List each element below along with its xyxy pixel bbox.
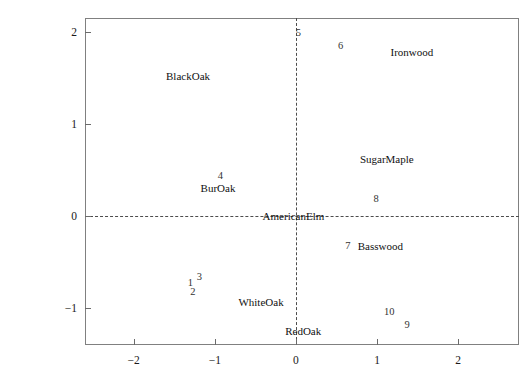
x-tick-label: 1 xyxy=(374,354,380,366)
y-tick-mark xyxy=(85,124,91,125)
y-tick-label: −1 xyxy=(49,302,77,314)
observation-point: 9 xyxy=(404,319,409,330)
variable-label: SugarMaple xyxy=(360,153,414,164)
y-tick-mark xyxy=(85,32,91,33)
scatter-biplot: −2−1012 −1012 12345678910 BlackOakBurOak… xyxy=(0,0,532,390)
observation-point: 8 xyxy=(374,194,379,205)
observation-point: 2 xyxy=(190,286,195,297)
x-tick-label: −2 xyxy=(128,354,140,366)
zero-line-vertical xyxy=(296,18,297,345)
observation-point: 4 xyxy=(218,170,223,181)
variable-label: Ironwood xyxy=(391,47,434,58)
y-tick-mark xyxy=(85,216,91,217)
x-tick-mark xyxy=(377,339,378,345)
variable-label: AmericanElm xyxy=(263,211,325,222)
observation-point: 3 xyxy=(197,272,202,283)
variable-label: BlackOak xyxy=(166,71,210,82)
x-tick-mark xyxy=(296,339,297,345)
observation-point: 6 xyxy=(338,40,343,51)
variable-label: BurOak xyxy=(201,183,236,194)
y-tick-label: 2 xyxy=(49,26,77,38)
variable-label: WhiteOak xyxy=(238,296,283,307)
variable-label: RedOak xyxy=(285,326,321,337)
x-tick-mark xyxy=(458,339,459,345)
x-tick-label: −1 xyxy=(209,354,221,366)
y-tick-label: 1 xyxy=(49,118,77,130)
x-tick-mark xyxy=(134,339,135,345)
variable-label: Basswood xyxy=(358,240,403,251)
observation-point: 7 xyxy=(345,240,350,251)
observation-point: 10 xyxy=(384,307,395,318)
plot-frame xyxy=(85,18,519,345)
x-tick-label: 2 xyxy=(455,354,461,366)
x-tick-mark xyxy=(215,339,216,345)
x-tick-label: 0 xyxy=(293,354,299,366)
observation-point: 5 xyxy=(296,27,301,38)
y-tick-label: 0 xyxy=(49,210,77,222)
y-tick-mark xyxy=(85,308,91,309)
